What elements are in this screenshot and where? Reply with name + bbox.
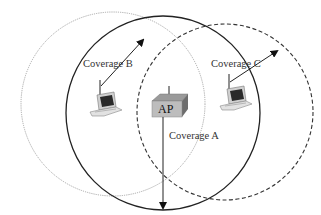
coverage-b-label: Coverage B: [83, 58, 133, 69]
ap-label: AP: [158, 102, 173, 117]
laptop-b-icon: [90, 92, 122, 116]
coverage-a-label: Coverage A: [169, 130, 219, 141]
coverage-c-label: Coverage C: [211, 58, 261, 69]
coverage-diagram: Coverage B Coverage C Coverage A AP: [0, 0, 321, 215]
laptop-c-icon: [220, 86, 252, 110]
